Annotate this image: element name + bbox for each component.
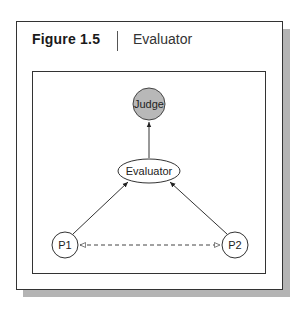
node-p2: P2 [222,232,248,258]
evaluator-label: Evaluator [126,165,173,177]
edge-p1-to-evaluator [73,182,128,234]
diagram-canvas: Judge Evaluator P1 P2 [0,0,303,313]
node-p1: P1 [52,232,78,258]
node-judge: Judge [133,88,165,120]
edge-p2-to-evaluator [170,182,227,234]
judge-label: Judge [134,98,164,110]
node-evaluator: Evaluator [118,159,180,183]
p1-label: P1 [58,239,71,251]
p2-label: P2 [228,239,241,251]
